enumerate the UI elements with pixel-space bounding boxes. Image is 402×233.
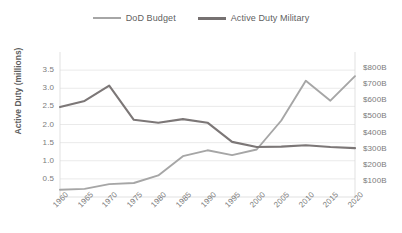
y-axis-right-tick-label: $300B xyxy=(363,144,402,153)
y-axis-right-tick-label: $800B xyxy=(363,63,402,72)
plot-area: Active Duty (millions) 3.53.02.52.01.51.… xyxy=(0,0,402,233)
series-line-active-duty-military xyxy=(60,86,355,148)
y-axis-right-tick-label: $200B xyxy=(363,160,402,169)
chart-container: DoD Budget Active Duty Military Active D… xyxy=(0,0,402,233)
series-line-dod-budget xyxy=(60,76,355,190)
y-axis-left-tick-label: 3.0 xyxy=(28,83,54,92)
y-axis-right-tick-label: $500B xyxy=(363,111,402,120)
y-axis-right-tick-label: $600B xyxy=(363,95,402,104)
y-axis-right-tick-label: $100B xyxy=(363,176,402,185)
gridlines xyxy=(60,70,355,179)
y-axis-left-tick-label: 1.5 xyxy=(28,138,54,147)
y-axis-left-tick-label: 0.5 xyxy=(28,174,54,183)
y-axis-title: Active Duty (millions) xyxy=(13,41,23,141)
y-axis-left-tick-label: 1.0 xyxy=(28,156,54,165)
y-axis-left-tick-label: 3.5 xyxy=(28,65,54,74)
y-axis-right-tick-label: $700B xyxy=(363,79,402,88)
y-axis-left-tick-label: 2.0 xyxy=(28,120,54,129)
y-axis-left-tick-label: 2.5 xyxy=(28,101,54,110)
y-axis-right-tick-label: $400B xyxy=(363,128,402,137)
